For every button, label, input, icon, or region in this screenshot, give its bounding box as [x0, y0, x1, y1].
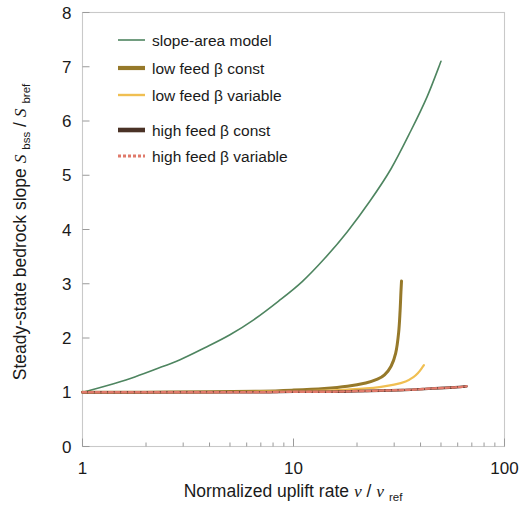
y-axis-title-subscript-2: bref	[20, 83, 32, 104]
chart-svg: 012345678 110100 slope-area modellow fee…	[0, 0, 522, 512]
x-axis-title: Normalized uplift rate v / v ref	[184, 481, 404, 503]
x-axis-ticks	[83, 439, 505, 447]
y-axis-title-subscript-1: bss	[20, 132, 32, 150]
legend-label-4: high feed β variable	[152, 148, 288, 165]
x-axis-title-symbol-2: v	[376, 481, 384, 501]
y-tick-label: 7	[62, 58, 71, 77]
legend-label-1: low feed β const	[152, 60, 265, 77]
legend-label-0: slope-area model	[152, 32, 272, 49]
x-axis-tick-labels: 110100	[78, 459, 519, 478]
x-axis-title-slash: /	[367, 481, 372, 501]
plot-frame	[83, 13, 505, 447]
x-axis-title-symbol-1: v	[354, 481, 362, 501]
chart-legend: slope-area modellow feed β constlow feed…	[118, 32, 288, 165]
y-axis-title-symbol-1: S	[10, 154, 30, 163]
legend-label-2: low feed β variable	[152, 87, 282, 104]
y-tick-label: 6	[62, 112, 71, 131]
y-tick-label: 8	[62, 4, 71, 23]
data-curves	[83, 61, 467, 392]
y-axis-title-main: Steady-state bedrock slope	[10, 168, 30, 380]
y-axis-title-symbol-2: S	[10, 108, 30, 117]
curve-series-1	[83, 281, 402, 392]
legend-label-3: high feed β const	[152, 122, 271, 139]
y-tick-label: 3	[62, 275, 71, 294]
y-tick-label: 5	[62, 166, 71, 185]
y-tick-label: 4	[62, 221, 71, 240]
y-tick-label: 0	[62, 438, 71, 457]
x-axis-title-subscript: ref	[389, 491, 403, 503]
curve-series-2	[83, 365, 424, 392]
svg-text:Steady-state bedrock slope: Steady-state bedrock slope S bss / S bre…	[10, 83, 34, 380]
curve-series-0	[83, 61, 441, 392]
y-axis-ticks	[83, 13, 90, 447]
y-axis-tick-labels: 012345678	[62, 4, 71, 457]
y-tick-label: 1	[62, 383, 71, 402]
x-tick-label: 10	[284, 459, 303, 478]
curve-series-4	[83, 386, 467, 392]
x-tick-label: 100	[490, 459, 518, 478]
x-axis-title-main: Normalized uplift rate	[184, 481, 349, 501]
x-tick-label: 1	[78, 459, 87, 478]
y-axis-title: Steady-state bedrock slope S bss / S bre…	[10, 83, 34, 380]
y-axis-title-slash: /	[10, 122, 30, 127]
svg-text:Normalized uplift rate: Normalized uplift rate v / v ref	[184, 481, 404, 503]
chart-figure: 012345678 110100 slope-area modellow fee…	[0, 0, 522, 512]
y-tick-label: 2	[62, 329, 71, 348]
